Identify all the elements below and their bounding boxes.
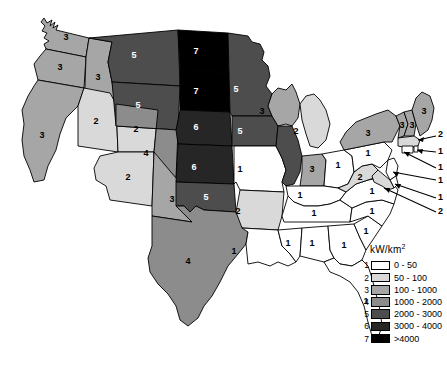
legend-title: kW/km2 [370,243,446,255]
label-WA: 3 [63,32,68,42]
legend: kW/km2 10 - 50250 - 1003100 - 100041000 … [362,243,446,345]
label-OH: 1 [335,160,340,170]
state-CA[interactable] [22,80,84,182]
label-VA: 1 [369,186,374,196]
legend-range-label: 2000 - 3000 [394,309,442,319]
label-MN: 5 [233,84,238,94]
state-ND[interactable] [178,30,229,73]
state-NE[interactable] [176,110,232,146]
legend-class-number: 7 [362,334,371,344]
callout-label-DE: 1 [438,192,443,202]
legend-row: 10 - 50 [362,259,446,271]
label-OR: 3 [57,62,62,72]
legend-row: 7>4000 [362,332,446,344]
legend-class-number: 5 [362,309,371,319]
legend-range-label: >4000 [394,334,419,344]
label-ID: 3 [95,72,100,82]
label-NY: 3 [365,128,370,138]
label-WV: 2 [357,172,362,182]
legend-row: 3100 - 1000 [362,284,446,296]
legend-row: 63000 - 4000 [362,320,446,332]
label-CA: 3 [39,130,44,140]
label-IL: 5 [261,154,266,164]
legend-range-label: 3000 - 4000 [394,321,442,331]
label-NM: 3 [169,194,174,204]
label-ND: 7 [193,46,198,56]
label-MO: 1 [237,164,242,174]
label-KY: 1 [297,190,302,200]
wind-power-density-map: 3 3 3 3 2 2 2 5 5 4 3 7 7 6 6 5 4 5 5 1 … [0,0,447,373]
label-TN: 1 [311,208,316,218]
label-IA: 5 [237,126,242,136]
legend-class-number: 3 [362,285,371,295]
label-MT: 5 [131,50,136,60]
legend-swatch [371,334,390,344]
legend-class-number: 2 [362,273,371,283]
label-MI: 2 [293,126,298,136]
label-NH: 3 [409,120,414,130]
label-VT: 3 [399,120,404,130]
callout-label-RI: 1 [438,146,443,156]
callout-label-MA: 2 [438,129,443,139]
label-WY: 5 [135,100,140,110]
state-KS[interactable] [176,144,234,184]
label-LA: 1 [231,246,236,256]
label-AR: 2 [235,206,240,216]
state-MI[interactable] [300,94,330,148]
label-IN: 3 [309,164,314,174]
legend-swatch [371,322,390,332]
legend-row: 52000 - 3000 [362,308,446,320]
legend-swatch [371,297,390,307]
callout-label-NJ: 1 [438,175,443,185]
label-OK: 5 [203,192,208,202]
label-SD: 7 [193,86,198,96]
label-SC: 1 [363,226,368,236]
legend-range-label: 50 - 100 [394,273,427,283]
callout-label-CT: 1 [438,162,443,172]
callout-label-MD: 2 [438,206,443,216]
label-GA: 1 [341,240,346,250]
legend-class-number: 1 [362,260,371,270]
legend-row: 250 - 100 [362,272,446,284]
legend-swatch [371,261,390,271]
label-UT: 2 [133,124,138,134]
label-TX: 4 [185,256,190,266]
legend-range-label: 100 - 1000 [394,285,437,295]
legend-range-label: 0 - 50 [394,260,417,270]
label-ME: 3 [421,106,426,116]
state-SD[interactable] [180,70,230,112]
label-NV: 2 [93,116,98,126]
legend-swatch [371,285,390,295]
label-CO: 4 [143,148,148,158]
state-TX[interactable] [148,206,248,326]
legend-rows: 10 - 50250 - 1003100 - 100041000 - 20005… [362,259,446,344]
legend-swatch [371,273,390,283]
legend-range-label: 1000 - 2000 [394,297,442,307]
legend-class-number: 4 [362,297,371,307]
state-MN[interactable] [228,33,272,116]
label-AZ: 2 [125,172,130,182]
label-KS: 6 [191,162,196,172]
legend-row: 41000 - 2000 [362,296,446,308]
label-NC: 1 [369,206,374,216]
label-AL: 1 [309,238,314,248]
state-RI[interactable] [414,146,418,152]
state-CT[interactable] [402,146,413,153]
leader-NJ [393,172,436,180]
label-MS: 1 [285,238,290,248]
label-NE: 6 [193,122,198,132]
label-WI: 3 [259,106,264,116]
legend-class-number: 6 [362,321,371,331]
state-AR[interactable] [236,190,284,230]
legend-swatch [371,309,390,319]
label-PA: 1 [365,148,370,158]
state-AZ[interactable] [94,152,154,206]
